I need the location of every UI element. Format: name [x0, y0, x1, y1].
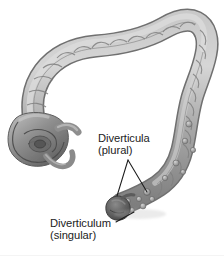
- figure-page: Diverticula (plural) Diverticulum (singu…: [0, 0, 224, 264]
- cecum-and-appendix: [8, 112, 78, 166]
- label-diverticulum: Diverticulum (singular): [50, 217, 111, 242]
- bottom-rule-divider: [0, 255, 224, 256]
- label-diverticula: Diverticula (plural): [98, 132, 150, 157]
- label-diverticula-line2: (plural): [98, 144, 150, 156]
- label-diverticulum-line2: (singular): [50, 229, 111, 241]
- colon-body: [30, 16, 207, 204]
- label-diverticula-line1: Diverticula: [98, 132, 150, 144]
- label-diverticulum-line1: Diverticulum: [50, 217, 111, 229]
